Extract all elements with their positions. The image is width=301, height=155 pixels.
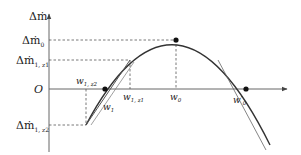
y-label-dm1z1: Δṁ1, z1: [16, 54, 49, 68]
x-label-w0: w0: [170, 92, 182, 103]
x-label-w1z1: w1, z1: [123, 92, 144, 103]
peak-point: [173, 37, 178, 42]
w1-point: [102, 86, 107, 91]
diagram-canvas: Δṁ O Δṁ0 Δṁ1, z1 Δṁ1, z2 w1, z2 w1 w1, z…: [0, 0, 301, 155]
x-label-w1z2: w1, z2: [76, 76, 98, 87]
y-axis-label: Δṁ: [29, 10, 48, 23]
w0prime-point: [243, 86, 248, 91]
y-label-dm1z2: Δṁ1, z2: [16, 119, 49, 133]
x-label-w0prime: w′0: [233, 95, 247, 106]
x-label-w1: w1: [103, 102, 114, 113]
origin-label: O: [34, 83, 43, 96]
y-label-dm0: Δṁ0: [22, 34, 44, 48]
